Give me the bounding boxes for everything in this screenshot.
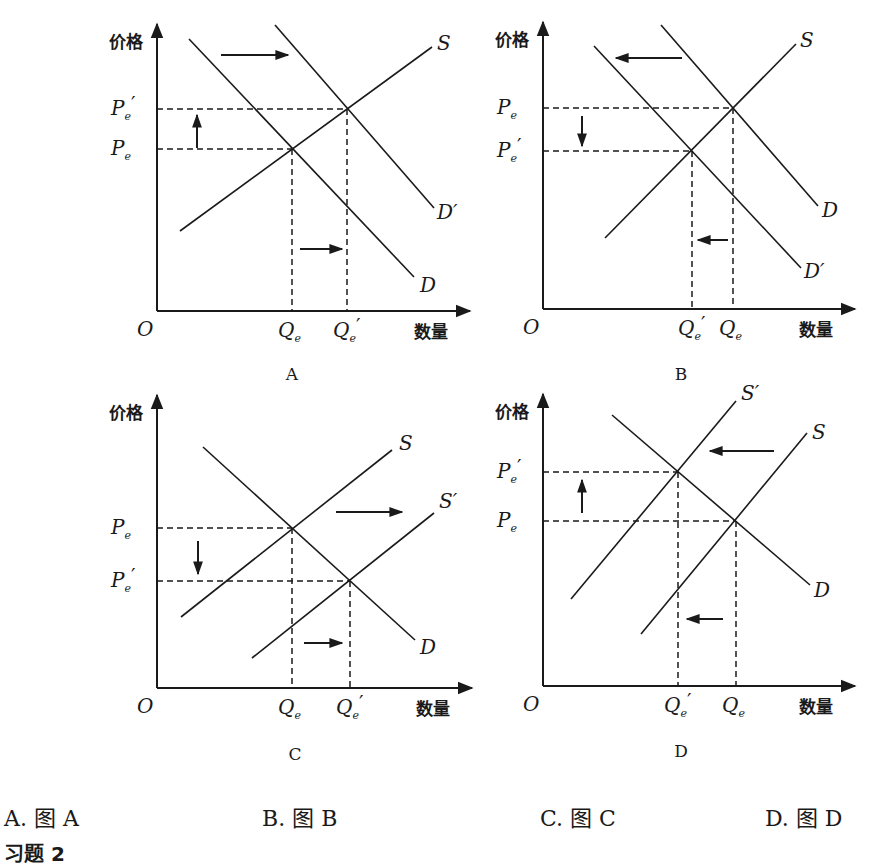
option-d-text: 图 D <box>796 806 843 831</box>
chart-caption: A <box>285 364 299 384</box>
chart-d: 价格数量OS′SDPe′PeQe′QeD <box>495 381 855 761</box>
curve-d <box>189 39 414 277</box>
quantity-tick-label: Qe′ <box>678 312 706 343</box>
origin-label: O <box>137 694 153 718</box>
quantity-axis-label: 数量 <box>799 697 833 717</box>
option-b[interactable]: B. 图 B <box>262 800 337 832</box>
curve-label: S <box>399 431 413 455</box>
option-a-letter: A. <box>4 806 27 831</box>
curve-d <box>203 447 415 640</box>
price-axis-label: 价格 <box>495 30 530 50</box>
chart-c: 价格数量OSS′DPePe′QeQe′C <box>109 395 472 764</box>
option-c-letter: C. <box>540 806 563 831</box>
curve-s <box>605 44 796 238</box>
quantity-tick-label: Qe′ <box>336 691 364 722</box>
curve-s <box>181 450 392 617</box>
exercise-heading: 习题 2 <box>4 838 65 867</box>
quantity-tick-label: Qe′ <box>664 689 692 720</box>
curve-label: S′ <box>741 381 760 405</box>
price-tick-label: Pe′ <box>110 92 136 123</box>
option-c-text: 图 C <box>570 806 616 831</box>
quantity-tick-label: Qe <box>719 316 742 343</box>
price-tick-label: Pe <box>110 136 131 163</box>
chart-b: 价格数量OSDD′PePe′Qe′QeB <box>495 22 855 384</box>
option-a-text: 图 A <box>34 806 79 831</box>
price-axis-label: 价格 <box>109 403 144 423</box>
option-b-text: 图 B <box>292 806 337 831</box>
curve-label: S <box>812 420 826 444</box>
quantity-tick-label: Qe <box>278 695 301 722</box>
price-tick-label: Pe′ <box>496 455 522 486</box>
price-tick-label: Pe′ <box>110 564 136 595</box>
curve-s <box>641 433 807 634</box>
quantity-tick-label: Qe <box>278 318 301 345</box>
option-d[interactable]: D. 图 D <box>765 800 843 832</box>
origin-label: O <box>523 692 539 716</box>
curve-label: D <box>821 198 838 222</box>
quantity-axis-label: 数量 <box>416 699 450 719</box>
option-d-letter: D. <box>765 806 789 831</box>
curve-label: D <box>419 273 436 297</box>
curve-label: S′ <box>439 489 458 513</box>
option-a[interactable]: A. 图 A <box>4 800 79 832</box>
curve-s-prime <box>252 513 434 658</box>
price-tick-label: Pe <box>110 515 131 542</box>
curve-s <box>180 47 432 231</box>
price-axis-label: 价格 <box>109 32 144 52</box>
curve-d <box>612 415 810 585</box>
curve-label: S <box>437 31 451 55</box>
chart-caption: D <box>674 741 688 761</box>
option-c[interactable]: C. 图 C <box>540 800 616 832</box>
quantity-tick-label: Qe <box>722 693 745 720</box>
curve-d <box>661 25 818 206</box>
price-axis-label: 价格 <box>495 402 530 422</box>
origin-label: O <box>523 315 539 339</box>
quantity-axis-label: 数量 <box>414 322 448 342</box>
origin-label: O <box>137 317 153 341</box>
curve-label: D <box>813 578 830 602</box>
chart-a: 价格数量OSDD′Pe′PeQeQe′A <box>109 24 470 384</box>
price-tick-label: Pe′ <box>496 134 522 165</box>
price-tick-label: Pe <box>496 508 517 535</box>
price-tick-label: Pe <box>496 95 517 122</box>
quantity-axis-label: 数量 <box>799 320 833 340</box>
curve-label: D′ <box>436 200 458 224</box>
curve-d-prime <box>275 25 434 208</box>
quantity-tick-label: Qe′ <box>333 314 361 345</box>
curve-label: S <box>800 28 814 52</box>
chart-caption: C <box>288 744 301 764</box>
option-b-letter: B. <box>262 806 285 831</box>
chart-caption: B <box>675 364 688 384</box>
curve-d-prime <box>594 46 801 268</box>
curve-label: D′ <box>803 259 825 283</box>
curve-label: D <box>419 635 436 659</box>
